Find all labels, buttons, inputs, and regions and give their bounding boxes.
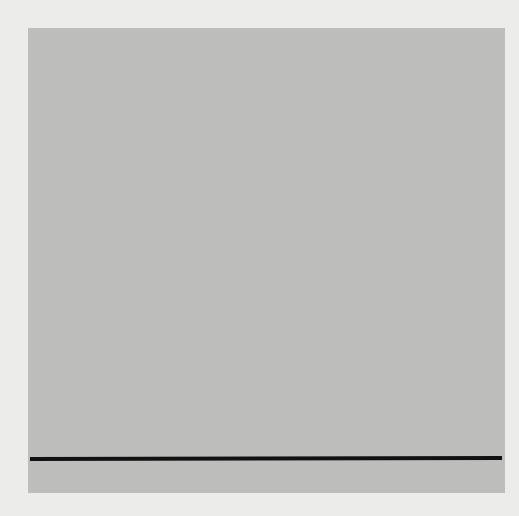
baseline: [30, 458, 502, 459]
chart-canvas: [0, 0, 519, 516]
